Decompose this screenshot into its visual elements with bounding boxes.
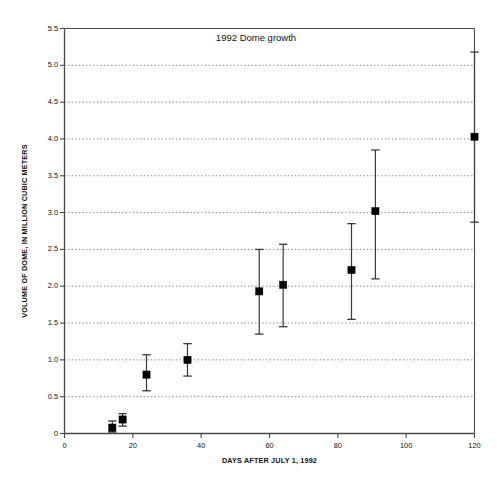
y-tick-label: 1.5 — [28, 318, 58, 327]
axis-ticks — [60, 29, 475, 439]
data-marker — [280, 281, 287, 288]
data-marker — [143, 371, 150, 378]
data-point — [108, 421, 116, 432]
y-tick-label: 0 — [28, 429, 58, 438]
x-tick-label: 80 — [323, 441, 353, 450]
data-marker — [119, 416, 126, 423]
data-point — [371, 150, 379, 279]
data-point — [142, 355, 150, 391]
chart-title: 1992 Dome growth — [0, 32, 497, 43]
data-point — [183, 344, 191, 376]
data-marker — [184, 356, 191, 363]
plot-frame — [65, 29, 475, 434]
y-tick-label: 2.5 — [28, 244, 58, 253]
data-marker — [372, 208, 379, 215]
data-point — [470, 52, 478, 222]
x-tick-label: 60 — [255, 441, 285, 450]
x-tick-label: 20 — [118, 441, 148, 450]
data-point — [118, 414, 126, 427]
data-marker — [256, 288, 263, 295]
data-point — [279, 244, 287, 326]
y-tick-label: 3.5 — [28, 171, 58, 180]
data-marker — [348, 266, 355, 273]
x-axis-title: DAYS AFTER JULY 1, 1992 — [120, 456, 420, 465]
x-tick-label: 0 — [50, 441, 80, 450]
chart-figure — [0, 0, 497, 484]
y-tick-label: 5.5 — [28, 24, 58, 33]
y-tick-label: 3.0 — [28, 208, 58, 217]
y-tick-label: 0.5 — [28, 392, 58, 401]
x-tick-label: 120 — [460, 441, 490, 450]
data-point — [347, 224, 355, 320]
x-tick-label: 100 — [391, 441, 421, 450]
y-tick-label: 1.0 — [28, 355, 58, 364]
y-tick-label: 2.0 — [28, 281, 58, 290]
data-series — [108, 52, 479, 432]
chart-canvas — [0, 0, 497, 484]
data-point — [255, 249, 263, 334]
y-tick-label: 5.0 — [28, 60, 58, 69]
y-tick-label: 4.0 — [28, 134, 58, 143]
grid-lines — [65, 65, 475, 396]
data-marker — [109, 424, 116, 431]
x-tick-label: 40 — [186, 441, 216, 450]
data-marker — [471, 133, 478, 140]
y-tick-label: 4.5 — [28, 97, 58, 106]
